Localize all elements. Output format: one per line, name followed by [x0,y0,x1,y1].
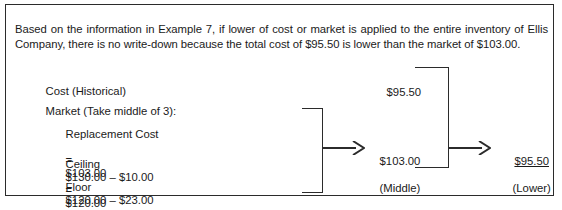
row-floor: Floor $120.00 – $23.00 = $ 97.00 [53,168,181,210]
flow-middle-caption: (Middle) [380,182,421,194]
row-floor-label: Floor [66,181,108,194]
row-replacement-cost-label: Replacement Cost [66,128,184,141]
intro-paragraph: Based on the information in Example 7, i… [15,22,548,51]
flow-lower-amount: $95.50 [514,155,549,167]
row-floor-equals: = [66,207,82,210]
flow-lower-value: $95.50 (Lower) [500,141,551,209]
flow-lower-caption: (Lower) [513,182,551,194]
arrow-to-lower-icon [449,141,491,159]
figure-container: Based on the information in Example 7, i… [5,4,554,196]
bracket-cost-vs-market [415,67,449,168]
arrow-market-to-middle-icon [323,141,365,159]
bracket-market-group [302,108,323,193]
flow-middle-value: $103.00 (Middle) [367,141,420,209]
row-floor-expression: $120.00 – $23.00 [66,194,181,207]
